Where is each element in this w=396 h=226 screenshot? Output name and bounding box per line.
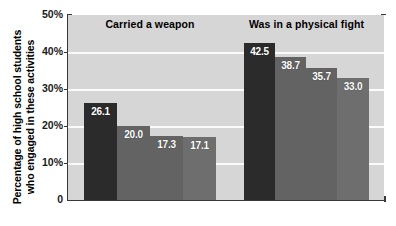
bar-value-label: 17.1 xyxy=(183,140,216,151)
axis-cap-top-right xyxy=(381,14,386,16)
y-axis-ticks: 50% 40% 30% 20% 10% 0 xyxy=(27,0,63,226)
bar-value-label: 26.1 xyxy=(84,106,117,117)
bar[interactable]: 33.0 xyxy=(337,78,369,200)
bar-value-label: 20.0 xyxy=(117,129,150,140)
plot-area: Carried a weapon 26.1 20.0 17.3 17.1 Was… xyxy=(67,15,384,201)
y-axis-title-line-1: Percentage of high school students xyxy=(11,30,24,205)
y-tick-label-0: 0 xyxy=(29,194,63,205)
bar[interactable]: 26.1 xyxy=(84,103,117,200)
bar-group-carried-a-weapon: Carried a weapon 26.1 20.0 17.3 17.1 xyxy=(84,15,216,200)
bar-group-bars: 42.5 38.7 35.7 33.0 xyxy=(244,15,369,200)
bar-value-label: 17.3 xyxy=(150,139,183,150)
bar-group-was-in-a-physical-fight: Was in a physical fight 42.5 38.7 35.7 3… xyxy=(244,15,369,200)
y-tick-label-20: 20% xyxy=(29,120,63,131)
y-tick-label-30: 30% xyxy=(29,83,63,94)
bar[interactable]: 35.7 xyxy=(306,68,337,200)
bar-group-bars: 26.1 20.0 17.3 17.1 xyxy=(84,15,216,200)
bar[interactable]: 17.1 xyxy=(183,137,216,200)
y-tick-label-50: 50% xyxy=(29,9,63,20)
y-tick-label-40: 40% xyxy=(29,46,63,57)
bar-value-label: 38.7 xyxy=(275,60,306,71)
bar[interactable]: 17.3 xyxy=(150,136,183,200)
bar[interactable]: 20.0 xyxy=(117,126,150,200)
bar-chart: Percentage of high school students who e… xyxy=(0,0,396,226)
bar[interactable]: 38.7 xyxy=(275,57,306,200)
bar-value-label: 42.5 xyxy=(244,46,275,57)
axis-cap-top-left xyxy=(67,14,72,16)
y-tick-label-10: 10% xyxy=(29,157,63,168)
bar[interactable]: 42.5 xyxy=(244,43,275,200)
bar-value-label: 35.7 xyxy=(306,71,337,82)
bar-value-label: 33.0 xyxy=(337,81,369,92)
axis-cap-bottom-right xyxy=(384,196,386,202)
